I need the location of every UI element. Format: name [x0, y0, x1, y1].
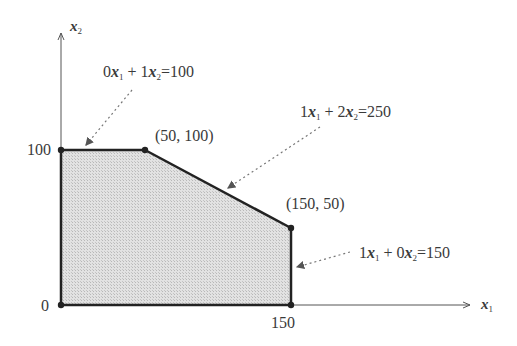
var: x — [405, 244, 413, 261]
sub: 1 — [119, 72, 124, 82]
constraint-label-1: 0x1 + 1x2=100 — [103, 64, 194, 82]
pointer-arrow-constraint-2 — [228, 127, 320, 188]
y-axis-var: x — [70, 18, 78, 34]
vertex-50-100 — [142, 147, 148, 153]
feasible-region — [61, 150, 291, 305]
sub: 2 — [157, 72, 162, 82]
vertex-0-0 — [58, 302, 64, 308]
x-axis-label: x1 — [481, 297, 493, 314]
rhs: 100 — [170, 63, 194, 80]
sub: 1 — [375, 253, 380, 263]
var: x — [367, 244, 375, 261]
coef: 0 — [397, 244, 405, 261]
x-axis-var: x — [481, 296, 489, 312]
y-axis-sub: 2 — [78, 26, 83, 36]
constraint-label-3: 1x1 + 0x2=150 — [359, 245, 450, 263]
vertex-label-50-100: (50, 100) — [155, 128, 214, 144]
var: x — [111, 63, 119, 80]
vertex-label-150-50: (150, 50) — [286, 196, 345, 212]
sub: 2 — [354, 112, 359, 122]
feasible-region-diagram — [0, 0, 517, 346]
sub: 2 — [413, 253, 418, 263]
coef: 1 — [359, 244, 367, 261]
x-tick-150: 150 — [271, 315, 295, 331]
vertex-0-100 — [58, 147, 64, 153]
var: x — [308, 103, 316, 120]
var: x — [149, 63, 157, 80]
rhs: 250 — [367, 103, 391, 120]
sub: 1 — [316, 112, 321, 122]
rhs: 150 — [426, 244, 450, 261]
x-axis-sub: 1 — [489, 304, 494, 314]
coef: 1 — [141, 63, 149, 80]
pointer-arrow-constraint-1 — [86, 90, 132, 145]
y-tick-100: 100 — [27, 142, 51, 158]
constraint-label-2: 1x1 + 2x2=250 — [300, 104, 391, 122]
var: x — [346, 103, 354, 120]
y-axis-label: x2 — [70, 19, 82, 36]
pointer-arrow-constraint-3 — [297, 252, 350, 267]
coef: 2 — [338, 103, 346, 120]
x-tick-0: 0 — [41, 298, 49, 314]
coef: 0 — [103, 63, 111, 80]
vertex-150-0 — [288, 302, 294, 308]
vertex-150-50 — [288, 225, 294, 231]
coef: 1 — [300, 103, 308, 120]
